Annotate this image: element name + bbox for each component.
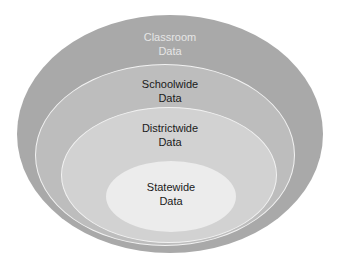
label-classroom: Classroom Data xyxy=(120,30,220,58)
label-schoolwide-line2: Data xyxy=(120,91,220,105)
label-statewide: Statewide Data xyxy=(121,180,221,208)
label-classroom-line2: Data xyxy=(120,44,220,58)
label-schoolwide: Schoolwide Data xyxy=(120,77,220,105)
label-statewide-line2: Data xyxy=(121,194,221,208)
label-schoolwide-line1: Schoolwide xyxy=(120,77,220,91)
label-districtwide-line2: Data xyxy=(120,135,220,149)
label-districtwide-line1: Districtwide xyxy=(120,121,220,135)
label-statewide-line1: Statewide xyxy=(121,180,221,194)
label-classroom-line1: Classroom xyxy=(120,30,220,44)
label-districtwide: Districtwide Data xyxy=(120,121,220,149)
